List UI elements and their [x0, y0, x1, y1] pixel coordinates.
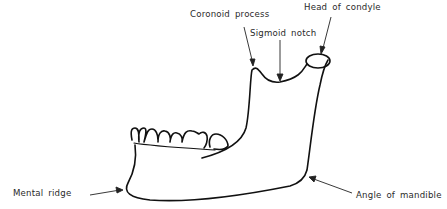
gum-line	[134, 143, 215, 150]
label-mental-ridge: Mental ridge	[13, 188, 71, 198]
jaw-outline	[126, 60, 328, 201]
coronoid-arrowhead	[250, 59, 255, 66]
condyle-arrowhead	[320, 46, 325, 54]
mandible-diagram: Coronoid process Sigmoid notch Head of c…	[0, 0, 447, 209]
angle-arrowhead	[309, 176, 316, 182]
teeth-row	[131, 128, 228, 149]
label-coronoid-process: Coronoid process	[190, 9, 269, 19]
cropped-caption	[30, 205, 447, 209]
label-head-of-condyle: Head of condyle	[304, 2, 381, 12]
sigmoid-notch-curve	[202, 64, 307, 158]
condyle-head	[306, 54, 330, 68]
angle-arrow	[311, 178, 352, 193]
mental-ridge-arrow	[90, 190, 120, 195]
mandible-drawing	[0, 0, 447, 209]
mental-ridge-arrowhead	[116, 187, 123, 193]
label-sigmoid-notch: Sigmoid notch	[250, 28, 316, 38]
label-angle-of-mandible: Angle of mandible	[356, 190, 442, 200]
sigmoid-arrowhead	[277, 74, 283, 81]
